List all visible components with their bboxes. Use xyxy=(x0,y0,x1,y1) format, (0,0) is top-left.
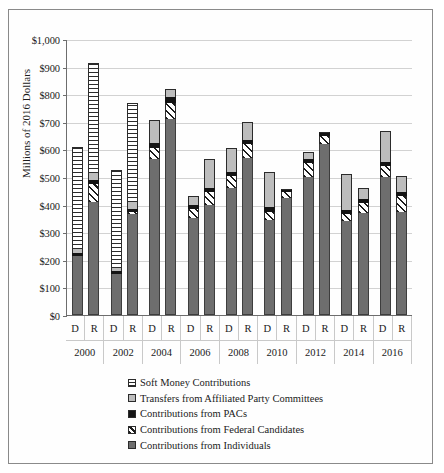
bar-segment-fedcand xyxy=(264,212,275,220)
x-tick-party-2016-D: D xyxy=(374,316,393,340)
y-tick-label: $900 xyxy=(39,62,60,73)
bar-2010-R xyxy=(281,189,292,315)
bar-2016-D xyxy=(380,131,391,315)
bar-segment-fedcand xyxy=(149,148,160,159)
bar-2000-R xyxy=(88,63,99,316)
x-tick-party-2004-R: R xyxy=(162,316,181,340)
bar-segment-individuals xyxy=(358,213,369,315)
bar-segment-individuals xyxy=(226,188,237,315)
bar-segment-fedcand xyxy=(319,136,330,144)
x-tick-party-2000-D: D xyxy=(66,316,85,340)
x-tick-party-2014-R: R xyxy=(354,316,373,340)
x-tick-party-2012-D: D xyxy=(297,316,316,340)
x-tick-year-2002: 2002 xyxy=(104,340,142,364)
bar-2000-D xyxy=(72,147,83,315)
bar-series-container xyxy=(67,40,412,315)
bar-segment-softmoney xyxy=(88,63,99,173)
legend-label: Contributions from Federal Candidates xyxy=(140,424,304,435)
bar-segment-transfers xyxy=(303,152,314,159)
legend-swatch-transfers-icon xyxy=(128,394,136,402)
bar-segment-softmoney xyxy=(111,170,122,268)
bar-2016-R xyxy=(396,176,407,315)
x-axis: DRDRDRDRDRDRDRDRDR 200020022004200620082… xyxy=(66,316,412,364)
bar-segment-individuals xyxy=(204,205,215,315)
bar-segment-transfers xyxy=(204,159,215,188)
x-tick-party-2012-R: R xyxy=(316,316,335,340)
bar-segment-transfers xyxy=(264,172,275,208)
x-tick-year-2014: 2014 xyxy=(335,340,373,364)
bar-segment-individuals xyxy=(165,119,176,315)
bar-segment-fedcand xyxy=(88,184,99,202)
y-tick-label: $600 xyxy=(39,145,60,156)
x-tick-year-2010: 2010 xyxy=(258,340,296,364)
x-tick-party-2014-D: D xyxy=(335,316,354,340)
legend-swatch-pacs-icon xyxy=(128,410,136,418)
x-tick-year-2008: 2008 xyxy=(220,340,258,364)
x-tick-party-2002-D: D xyxy=(104,316,123,340)
bar-segment-individuals xyxy=(341,221,352,315)
bar-segment-individuals xyxy=(111,274,122,315)
bar-segment-fedcand xyxy=(242,144,253,158)
bar-segment-individuals xyxy=(127,214,138,315)
y-tick-label: $200 xyxy=(39,255,60,266)
bar-2006-D xyxy=(188,196,199,315)
bar-segment-individuals xyxy=(303,177,314,315)
y-tick-label: $300 xyxy=(39,228,60,239)
bar-2014-R xyxy=(358,188,369,315)
bar-segment-fedcand xyxy=(380,166,391,177)
legend-item-fedcand: Contributions from Federal Candidates xyxy=(66,422,412,438)
x-tick-year-2006: 2006 xyxy=(181,340,219,364)
bar-segment-fedcand xyxy=(165,103,176,120)
chart-figure: Millions of 2016 Dollars $1,000$900$800$… xyxy=(0,0,444,473)
x-tick-party-2010-D: D xyxy=(258,316,277,340)
x-tick-party-2010-R: R xyxy=(277,316,296,340)
x-tick-party-2006-D: D xyxy=(181,316,200,340)
bar-segment-individuals xyxy=(319,144,330,315)
bar-segment-individuals xyxy=(380,177,391,315)
bar-segment-transfers xyxy=(188,196,199,204)
bar-2002-R xyxy=(127,103,138,315)
bar-segment-individuals xyxy=(88,202,99,315)
bar-segment-transfers xyxy=(358,188,369,199)
bar-2008-R xyxy=(242,122,253,315)
bar-2014-D xyxy=(341,174,352,315)
legend-swatch-softmoney-icon xyxy=(128,379,136,387)
bar-segment-transfers xyxy=(149,120,160,142)
bar-segment-fedcand xyxy=(358,203,369,213)
legend-item-softmoney: Soft Money Contributions xyxy=(66,375,412,391)
legend-label: Contributions from PACs xyxy=(140,408,247,419)
bar-segment-fedcand xyxy=(188,209,199,219)
legend-item-pacs: Contributions from PACs xyxy=(66,406,412,422)
y-tick-label: $800 xyxy=(39,90,60,101)
y-tick-label: $500 xyxy=(39,173,60,184)
x-tick-party-2000-R: R xyxy=(85,316,104,340)
x-tick-party-2002-R: R xyxy=(124,316,143,340)
bar-segment-individuals xyxy=(149,159,160,315)
legend-label: Transfers from Affiliated Party Committe… xyxy=(140,393,323,404)
bar-2006-R xyxy=(204,159,215,315)
x-tick-party-2008-D: D xyxy=(220,316,239,340)
bar-segment-individuals xyxy=(281,198,292,315)
bar-segment-fedcand xyxy=(341,214,352,221)
bar-segment-transfers xyxy=(127,202,138,209)
x-tick-year-2016: 2016 xyxy=(374,340,412,364)
bar-2004-R xyxy=(165,89,176,315)
legend-swatch-fedcand-icon xyxy=(128,426,136,434)
bar-segment-fedcand xyxy=(303,163,314,177)
x-tick-year-2012: 2012 xyxy=(297,340,335,364)
bar-segment-transfers xyxy=(88,173,99,180)
x-tick-year-2000: 2000 xyxy=(66,340,104,364)
legend-item-transfers: Transfers from Affiliated Party Committe… xyxy=(66,391,412,407)
y-axis-title: Millions of 2016 Dollars xyxy=(20,69,32,178)
x-axis-party-row: DRDRDRDRDRDRDRDRDR xyxy=(66,316,412,341)
bar-segment-softmoney xyxy=(127,103,138,202)
legend-swatch-individuals-icon xyxy=(128,441,136,449)
bar-2010-D xyxy=(264,172,275,315)
bar-segment-fedcand xyxy=(226,176,237,188)
x-tick-party-2004-D: D xyxy=(143,316,162,340)
bar-segment-individuals xyxy=(242,158,253,315)
x-axis-year-row: 200020022004200620082010201220142016 xyxy=(66,340,412,364)
bar-2004-D xyxy=(149,120,160,315)
bar-2008-D xyxy=(226,148,237,315)
bar-segment-individuals xyxy=(396,212,407,316)
